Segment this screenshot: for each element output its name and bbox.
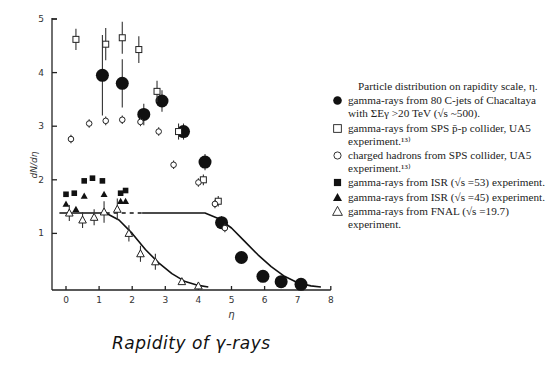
- open-triangle-marker: [137, 250, 145, 257]
- filled-triangle-marker: [333, 193, 342, 201]
- filled-circle-marker: [116, 77, 129, 90]
- x-tick-label: 7: [295, 295, 301, 305]
- open-circle-marker: [68, 136, 74, 142]
- x-tick-label: 0: [63, 295, 69, 305]
- filled-square-marker: [81, 178, 87, 184]
- y-tick-label: 3: [38, 121, 44, 131]
- filled-circle-marker: [275, 275, 288, 288]
- filled-square-marker: [100, 178, 106, 184]
- filled-circle-marker: [235, 251, 248, 264]
- series-filled-square: [63, 175, 128, 197]
- legend-item-label: gamma-rays from 80 C-jets of Chacaltaya …: [348, 94, 536, 119]
- legend-title: Particle distribution on rapidity scale,…: [330, 80, 545, 93]
- fit-curve-low-energy: [59, 213, 208, 287]
- filled-circle-marker: [96, 69, 109, 82]
- filled-square-icon: [332, 177, 343, 188]
- legend-item-filled-triangle: gamma-rays from ISR (√s =45) experiment.: [330, 191, 545, 204]
- x-tick-label: 1: [96, 295, 102, 305]
- x-tick-label: 2: [129, 295, 135, 305]
- filled-circle-icon: [332, 95, 343, 106]
- open-square-icon: [332, 123, 343, 134]
- open-square-marker: [176, 129, 182, 135]
- filled-square-marker: [71, 190, 77, 196]
- fit-curve-high-energy: [142, 213, 321, 287]
- series-open-triangle: [66, 199, 203, 289]
- filled-triangle-marker: [101, 191, 108, 197]
- legend-item-open-square: gamma-rays from SPS p̄-p collider, UA5 e…: [330, 122, 545, 148]
- x-axis-title: Rapidity of γ-rays: [112, 333, 271, 353]
- legend-item-filled-square: gamma-rays from ISR (√s =53) experiment.: [330, 176, 545, 189]
- filled-triangle-marker: [72, 206, 79, 212]
- filled-triangle-marker: [81, 192, 88, 198]
- filled-square-marker: [90, 175, 96, 181]
- open-triangle-marker: [333, 206, 343, 215]
- open-circle-marker: [334, 152, 341, 159]
- axis-labels: 01234567812345dN/dηη: [29, 14, 334, 320]
- y-tick-label: 2: [38, 175, 44, 185]
- legend-item-label: gamma-rays from ISR (√s =45) experiment.: [348, 191, 545, 203]
- y-axis-label: dN/dη: [29, 151, 39, 178]
- filled-circle-marker: [256, 270, 269, 283]
- filled-square-marker: [123, 188, 129, 194]
- x-tick-label: 3: [162, 295, 168, 305]
- open-circle-marker: [222, 225, 228, 231]
- filled-circle-marker: [295, 278, 308, 291]
- open-circle-marker: [138, 119, 144, 125]
- open-triangle-marker: [79, 216, 87, 223]
- data-points: [63, 22, 308, 291]
- x-axis-label: η: [228, 309, 234, 320]
- axes: [52, 18, 331, 290]
- series-open-circle: [68, 115, 228, 232]
- open-circle-marker: [156, 129, 162, 135]
- open-square-marker: [334, 124, 342, 132]
- open-triangle-marker: [100, 208, 108, 215]
- open-circle-marker: [86, 121, 92, 127]
- filled-triangle-icon: [332, 192, 343, 203]
- y-tick-label: 5: [38, 14, 44, 24]
- legend-item-label: gamma-rays from SPS p̄-p collider, UA5 e…: [348, 122, 531, 147]
- filled-triangle-marker: [63, 200, 70, 206]
- open-square-marker: [103, 41, 109, 47]
- filled-square-marker: [118, 190, 124, 196]
- open-triangle-icon: [332, 206, 343, 217]
- open-circle-marker: [119, 117, 125, 123]
- filled-triangle-marker: [122, 198, 129, 204]
- legend: Particle distribution on rapidity scale,…: [330, 80, 545, 231]
- filled-circle-marker: [199, 156, 212, 169]
- open-square-marker: [73, 36, 79, 42]
- legend-item-open-triangle: gamma-rays from FNAL (√s =19.7) experime…: [330, 205, 545, 231]
- open-square-marker: [154, 88, 160, 94]
- open-triangle-marker: [90, 213, 98, 220]
- legend-item-label: gamma-rays from FNAL (√s =19.7) experime…: [348, 205, 509, 230]
- x-tick-label: 6: [262, 295, 268, 305]
- open-circle-marker: [212, 201, 218, 207]
- y-tick-label: 1: [38, 228, 44, 238]
- open-square-marker: [136, 47, 142, 53]
- filled-circle-marker: [333, 96, 342, 105]
- open-circle-marker: [103, 118, 109, 124]
- open-triangle-marker: [114, 205, 122, 212]
- open-circle-marker: [171, 162, 177, 168]
- y-tick-label: 4: [38, 68, 44, 78]
- x-tick-label: 4: [196, 295, 202, 305]
- open-square-marker: [119, 35, 125, 41]
- legend-item-open-circle: charged hadrons from SPS collider, UA5 e…: [330, 149, 545, 175]
- open-circle-icon: [332, 150, 343, 161]
- open-circle-marker: [196, 180, 202, 186]
- x-tick-label: 5: [229, 295, 235, 305]
- filled-square-marker: [63, 191, 69, 197]
- filled-square-marker: [334, 179, 341, 186]
- x-tick-label: 8: [328, 295, 334, 305]
- legend-item-label: gamma-rays from ISR (√s =53) experiment.: [348, 176, 545, 188]
- legend-item-label: charged hadrons from SPS collider, UA5 e…: [348, 149, 531, 174]
- series-filled-circle: [96, 35, 308, 291]
- legend-item-filled-circle: gamma-rays from 80 C-jets of Chacaltaya …: [330, 94, 545, 120]
